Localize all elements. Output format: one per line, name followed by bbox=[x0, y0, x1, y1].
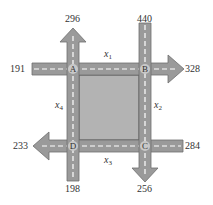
traffic-network-diagram: A B C D 191 296 440 328 284 256 198 233 … bbox=[0, 0, 213, 205]
flow-out-b-east: 328 bbox=[185, 64, 200, 74]
variable-x1: x1 bbox=[104, 49, 112, 61]
variable-x4: x4 bbox=[55, 100, 63, 112]
flow-in-b-north: 440 bbox=[137, 14, 152, 24]
variable-x2: x2 bbox=[154, 100, 162, 112]
flow-out-c-south: 256 bbox=[137, 184, 152, 194]
city-block bbox=[79, 75, 139, 140]
variable-x3: x3 bbox=[104, 155, 112, 167]
flow-out-d-west: 233 bbox=[13, 141, 28, 151]
flow-in-a-west: 191 bbox=[10, 64, 25, 74]
intersection-b-label: B bbox=[142, 65, 148, 74]
flow-out-a-north: 296 bbox=[65, 14, 80, 24]
flow-in-d-south: 198 bbox=[65, 184, 80, 194]
intersection-a-label: A bbox=[70, 65, 77, 74]
intersection-d-label: D bbox=[70, 142, 77, 151]
flow-in-c-east: 284 bbox=[185, 141, 200, 151]
intersection-c-label: C bbox=[142, 142, 148, 151]
road-network-graphic bbox=[0, 0, 213, 205]
